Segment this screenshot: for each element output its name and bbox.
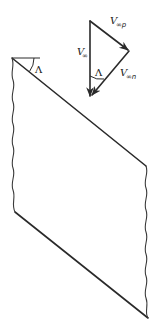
v-inf-p-subscript: ∞p (116, 21, 127, 29)
triangle-angle-label: Λ (94, 67, 103, 78)
wing-root-break-line (12, 58, 15, 212)
v-inf-subscript: ∞ (82, 52, 88, 60)
sweep-angle-label: Λ (34, 64, 43, 75)
swept-wing-diagram: Λ Λ V ∞ V ∞p V ∞n (0, 0, 161, 334)
wing-tip-break-line (145, 166, 148, 318)
v-inf-n-subscript: ∞n (126, 73, 136, 81)
velocity-triangle: Λ V ∞ V ∞p V ∞n (77, 15, 136, 96)
sweep-angle-arc (30, 58, 35, 72)
wing-trailing-edge (15, 212, 148, 318)
wing-planform: Λ (12, 58, 148, 318)
